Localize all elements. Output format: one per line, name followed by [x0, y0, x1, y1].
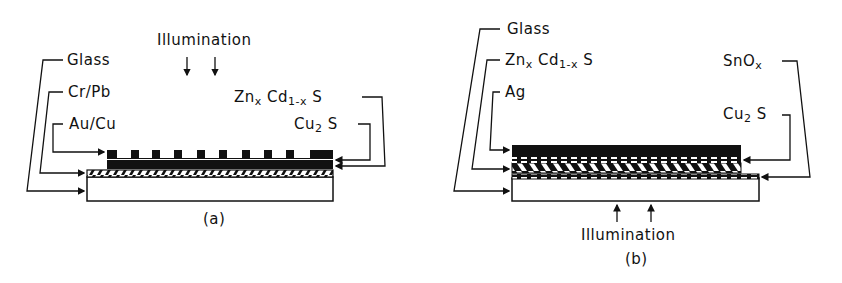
caption-b: (b) [625, 252, 648, 267]
caption-a: (a) [203, 212, 225, 227]
ag-label: Ag [505, 85, 526, 100]
cr-pb-label: Cr/Pb [68, 85, 111, 100]
snox-layer [512, 174, 759, 179]
glass-substrate-b [512, 178, 759, 201]
cr-pb-layer [87, 170, 333, 177]
panel-b-device [512, 145, 759, 201]
cu2s-layer-b [512, 157, 741, 163]
glass-label-a: Glass [67, 53, 110, 68]
au-cu-grid [107, 150, 333, 158]
zncds-label-b: Znx Cd1-x S [505, 53, 593, 70]
snox-label: SnOx [723, 54, 762, 71]
zncds-layer-b [512, 163, 741, 173]
cu2s-label-a: Cu2 S [294, 117, 338, 134]
panel-a-device [87, 150, 333, 201]
glass-substrate-a [87, 177, 333, 201]
illumination-label-b: Illumination [581, 228, 675, 243]
ag-layer [512, 145, 741, 157]
au-cu-label: Au/Cu [69, 117, 116, 132]
glass-label-b: Glass [507, 22, 550, 37]
solar-cell-diagrams [0, 0, 842, 283]
illumination-label-a: Illumination [157, 33, 251, 48]
cu2s-label-b: Cu2 S [723, 107, 767, 124]
zncds-label-a: Znx Cd1-x S [234, 90, 322, 107]
